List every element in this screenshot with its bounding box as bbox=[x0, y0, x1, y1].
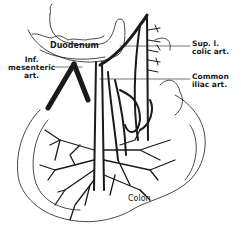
label-superior-left-colic-artery: Sup. l. colic art. bbox=[192, 40, 229, 56]
label-line: colic art. bbox=[192, 48, 229, 56]
label-inferior-mesenteric-artery: Inf. mesenteric art. bbox=[8, 56, 55, 80]
label-line: art. bbox=[8, 72, 55, 80]
label-common-iliac-artery: Common iliac art. bbox=[192, 73, 229, 89]
label-line: iliac art. bbox=[192, 81, 229, 89]
anatomical-illustration bbox=[0, 0, 241, 235]
sup-colic-branches bbox=[148, 25, 160, 72]
duodenum-shape bbox=[28, 4, 125, 62]
label-colon: Colon bbox=[128, 195, 151, 203]
label-duodenum: Duodenum bbox=[50, 42, 99, 50]
